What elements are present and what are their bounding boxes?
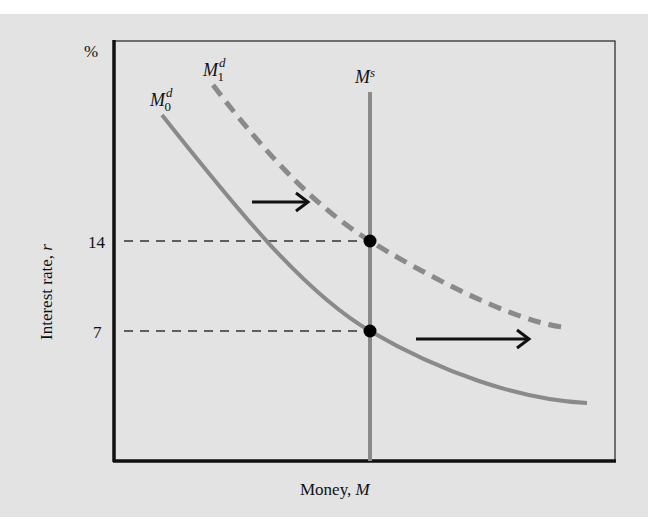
- tick-label-7: 7: [93, 323, 102, 342]
- money-market-chart: % 14 7 Interest rate, r Money, M Md0 Md1…: [0, 0, 654, 521]
- shift-arrow-icon: [252, 193, 308, 211]
- money-demand-curve-0: [162, 115, 587, 403]
- m1-demand-label: Md1: [202, 55, 226, 84]
- m0-demand-label: Md0: [149, 85, 173, 114]
- tick-label-14: 14: [88, 233, 106, 252]
- percent-label: %: [84, 42, 98, 61]
- y-axis-title: Interest rate, r: [37, 244, 56, 340]
- equilibrium-point-14: [364, 235, 377, 248]
- money-demand-curve-1: [213, 85, 562, 327]
- shift-arrow-icon: [416, 330, 529, 348]
- equilibrium-point-7: [364, 325, 377, 338]
- money-supply-label: Ms: [354, 65, 375, 87]
- x-axis-title: Money, M: [300, 480, 371, 499]
